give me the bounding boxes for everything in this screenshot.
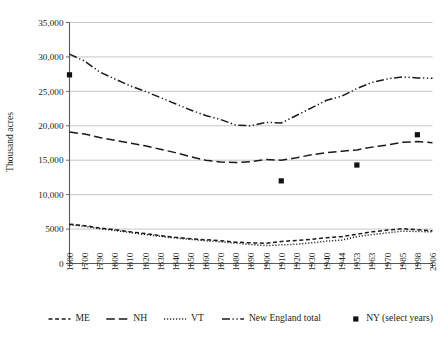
legend-label-vt: VT xyxy=(191,312,204,323)
legend-label-ny-select-years: NY (select years) xyxy=(366,312,433,324)
x-tick-label: 1998 xyxy=(413,252,423,271)
x-tick-label: 1944 xyxy=(337,252,347,271)
x-tick-label: 1910 xyxy=(277,252,287,271)
chart-canvas: 0500010,00015,00020,00025,00030,00035,00… xyxy=(0,0,448,337)
ny-marker xyxy=(279,178,284,183)
x-tick-label: 1970 xyxy=(383,252,393,271)
legend-label-nh: NH xyxy=(133,312,147,323)
y-tick-label: 15,000 xyxy=(38,155,64,165)
chart-legend: MENHVTNew England totalNY (select years) xyxy=(49,312,433,324)
x-tick-label: 1953 xyxy=(352,252,362,271)
gridlines xyxy=(70,23,433,230)
y-tick-label: 5000 xyxy=(45,224,64,234)
series-line-me xyxy=(70,224,433,243)
x-tick-label: 1920 xyxy=(292,252,302,271)
x-tick-label: 1870 xyxy=(216,252,226,271)
x-tick-label: 1930 xyxy=(307,252,317,271)
x-tick-label: 1940 xyxy=(322,252,332,271)
y-tick-label: 20,000 xyxy=(38,121,64,131)
x-tick-label: 1700 xyxy=(80,252,90,271)
x-tick-label: 1800 xyxy=(110,252,120,271)
x-tick-label: 1900 xyxy=(262,252,272,271)
ny-marker xyxy=(354,162,359,167)
y-tick-label: 10,000 xyxy=(38,190,64,200)
legend-label-me: ME xyxy=(76,312,91,323)
x-tick-label: 1985 xyxy=(398,252,408,271)
x-tick-label: 2006 xyxy=(428,252,438,271)
x-axis: 1600170017901800181018201830184018501860… xyxy=(65,252,438,271)
data-series xyxy=(70,54,433,245)
y-axis: 0500010,00015,00020,00025,00030,00035,00… xyxy=(38,18,69,269)
x-tick-label: 1880 xyxy=(231,252,241,271)
x-tick-label: 1830 xyxy=(156,252,166,271)
x-tick-label: 1840 xyxy=(171,252,181,271)
ny-marker xyxy=(67,72,72,77)
x-tick-label: 1963 xyxy=(367,252,377,271)
legend-label-new-england-total: New England total xyxy=(249,312,321,323)
x-tick-label: 1810 xyxy=(125,252,135,271)
y-tick-label: 0 xyxy=(59,259,64,269)
ny-marker xyxy=(415,132,420,137)
x-tick-label: 1820 xyxy=(141,252,151,271)
x-tick-label: 1790 xyxy=(95,252,105,271)
y-tick-label: 25,000 xyxy=(38,87,64,97)
y-tick-label: 35,000 xyxy=(38,18,64,28)
x-tick-label: 1860 xyxy=(201,252,211,271)
y-tick-label: 30,000 xyxy=(38,52,64,62)
series-line-new-england-total xyxy=(70,54,433,126)
ny-select-years-markers xyxy=(67,72,420,183)
x-tick-label: 1890 xyxy=(246,252,256,271)
series-line-vt xyxy=(70,225,433,246)
y-axis-title: Thousand acres xyxy=(4,112,15,172)
x-tick-label: 1600 xyxy=(65,252,75,271)
series-line-nh xyxy=(70,132,433,163)
legend-swatch-ny-select-years xyxy=(353,316,358,321)
forest-area-line-chart: 0500010,00015,00020,00025,00030,00035,00… xyxy=(0,0,448,337)
x-tick-label: 1850 xyxy=(186,252,196,271)
